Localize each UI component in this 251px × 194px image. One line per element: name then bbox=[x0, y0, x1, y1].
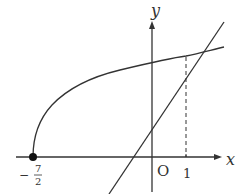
origin-label: O bbox=[157, 162, 169, 180]
start-point-dot bbox=[29, 153, 37, 161]
x-axis-label: x bbox=[226, 150, 235, 169]
radical-curve bbox=[33, 47, 224, 157]
fraction-numerator: 7 bbox=[35, 163, 41, 174]
y-axis-arrow-icon bbox=[149, 21, 155, 29]
fraction-denominator: 2 bbox=[35, 176, 41, 187]
y-axis-label: y bbox=[150, 1, 161, 20]
neg-sign-label: − bbox=[19, 168, 29, 182]
graph: y x O 1 − 7 2 bbox=[0, 0, 251, 194]
x-axis-arrow-icon bbox=[214, 154, 222, 160]
x-tick-1-label: 1 bbox=[183, 166, 191, 181]
